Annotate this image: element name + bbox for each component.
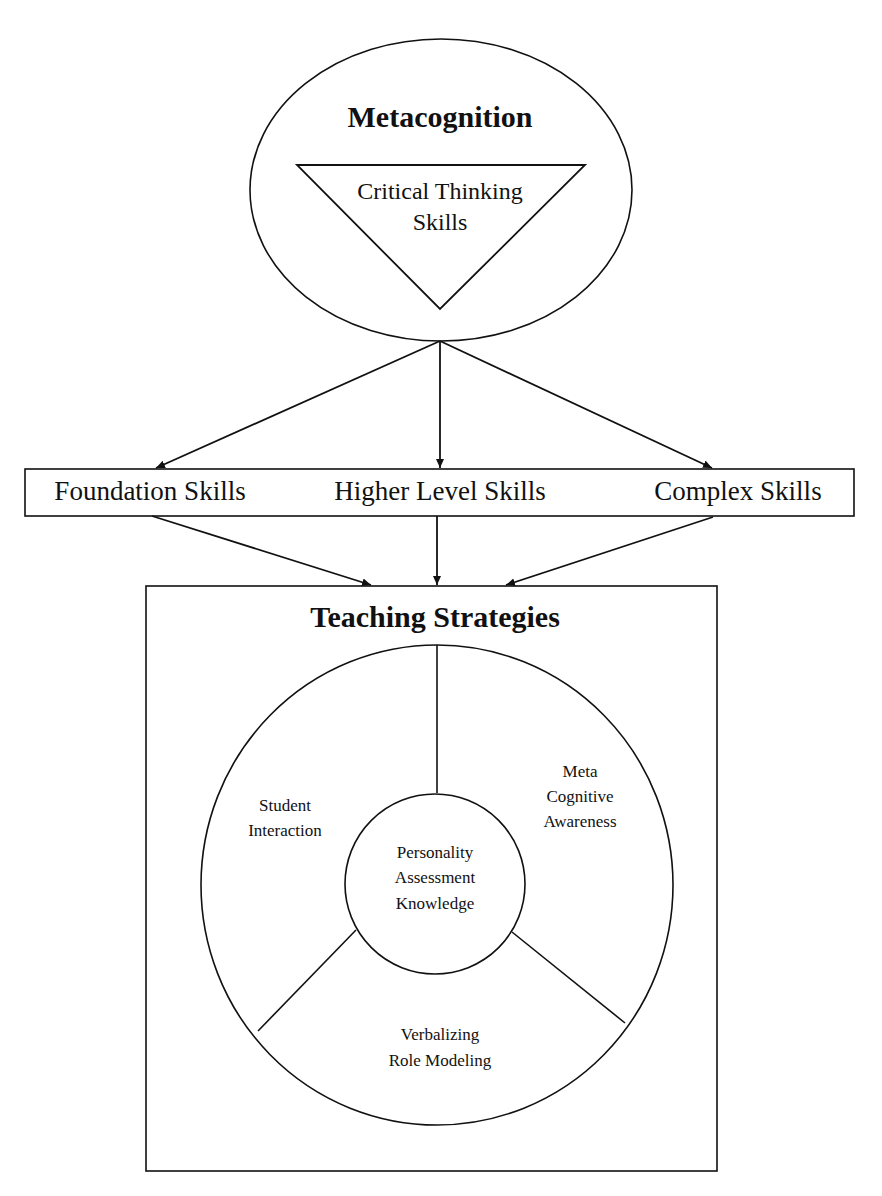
- segment-bottom-line1: Verbalizing: [360, 1025, 520, 1044]
- segment-right-line1: Meta: [520, 762, 640, 781]
- center-line1: Personality: [365, 843, 505, 862]
- metacognition-title: Metacognition: [290, 100, 590, 134]
- segment-right-line3: Awareness: [520, 812, 640, 831]
- critical-thinking-label-line1: Critical Thinking: [290, 178, 590, 205]
- segment-right-line2: Cognitive: [520, 787, 640, 806]
- skill-foundation: Foundation Skills: [30, 476, 270, 506]
- skill-higher-level: Higher Level Skills: [310, 476, 570, 506]
- arrows-to-teaching: [152, 516, 713, 585]
- center-line2: Assessment: [365, 868, 505, 887]
- skill-complex: Complex Skills: [630, 476, 846, 506]
- segment-left-line2: Interaction: [220, 821, 350, 840]
- teaching-strategies-title: Teaching Strategies: [240, 600, 630, 634]
- critical-thinking-label-line2: Skills: [290, 209, 590, 236]
- center-line3: Knowledge: [365, 894, 505, 913]
- segment-left-line1: Student: [220, 796, 350, 815]
- arrows-to-skills: [156, 341, 712, 468]
- segment-bottom-line2: Role Modeling: [360, 1051, 520, 1070]
